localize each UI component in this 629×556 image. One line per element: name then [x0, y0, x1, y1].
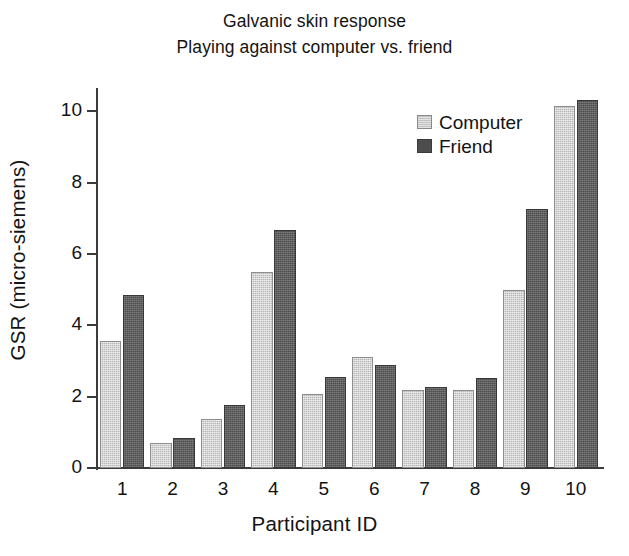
x-tick-label-9: 9 [501, 478, 549, 500]
bar-friend-2 [173, 438, 195, 468]
bar-computer-10 [554, 106, 576, 468]
chart-figure: Galvanic skin response Playing against c… [0, 0, 629, 556]
x-tick-label-7: 7 [401, 478, 449, 500]
y-tick-label-8: 8 [40, 172, 82, 192]
y-tick-2 [87, 396, 97, 398]
bar-friend-8 [476, 378, 498, 468]
y-tick-label-0: 0 [40, 457, 82, 477]
bar-friend-9 [526, 209, 548, 468]
y-tick-label-6: 6 [40, 243, 82, 263]
y-tick-6 [87, 253, 97, 255]
bar-computer-6 [352, 357, 374, 468]
x-tick-label-5: 5 [300, 478, 348, 500]
x-axis-title: Participant ID [0, 512, 629, 536]
chart-legend: Computer Friend [417, 110, 522, 158]
y-tick-0 [87, 467, 97, 469]
legend-label-computer: Computer [439, 113, 522, 132]
x-tick-label-6: 6 [350, 478, 398, 500]
bar-friend-7 [425, 387, 447, 468]
bar-friend-3 [224, 405, 246, 468]
bar-computer-3 [201, 419, 223, 468]
y-tick-label-2: 2 [40, 386, 82, 406]
legend-item-computer: Computer [417, 110, 522, 134]
chart-title: Galvanic skin response [0, 8, 629, 34]
bar-computer-4 [251, 272, 273, 468]
y-tick-label-10: 10 [40, 100, 82, 120]
bar-friend-5 [325, 377, 347, 468]
bar-friend-6 [375, 365, 397, 468]
x-tick-label-2: 2 [149, 478, 197, 500]
x-tick-label-10: 10 [552, 478, 600, 500]
x-tick-label-3: 3 [199, 478, 247, 500]
y-tick-4 [87, 324, 97, 326]
y-tick-label-4: 4 [40, 314, 82, 334]
legend-swatch-friend-icon [417, 139, 432, 153]
y-axis-title: GSR (micro-siemens) [6, 10, 30, 510]
chart-title-block: Galvanic skin response Playing against c… [0, 8, 629, 61]
y-tick-8 [87, 182, 97, 184]
legend-label-friend: Friend [439, 137, 493, 156]
bar-friend-10 [577, 100, 599, 468]
bar-computer-8 [453, 390, 475, 468]
x-tick-label-8: 8 [451, 478, 499, 500]
bar-friend-4 [274, 230, 296, 468]
bar-computer-7 [402, 390, 424, 468]
bar-computer-1 [100, 341, 122, 468]
plot-area [97, 90, 601, 468]
legend-swatch-computer-icon [417, 115, 432, 129]
bar-friend-1 [123, 295, 145, 468]
legend-item-friend: Friend [417, 134, 522, 158]
bar-computer-9 [503, 290, 525, 468]
x-tick-label-1: 1 [98, 478, 146, 500]
chart-subtitle: Playing against computer vs. friend [0, 34, 629, 61]
y-tick-10 [87, 110, 97, 112]
bar-computer-5 [302, 394, 324, 468]
bar-computer-2 [150, 443, 172, 468]
x-tick-label-4: 4 [249, 478, 297, 500]
